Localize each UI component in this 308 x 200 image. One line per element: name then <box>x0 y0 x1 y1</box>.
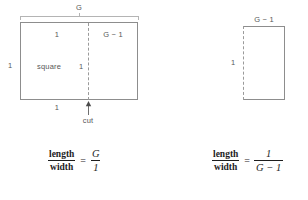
right-label-one: 1 <box>231 59 235 67</box>
left-formula-rhs-numerator: G <box>90 148 102 160</box>
label-top-left-one: 1 <box>55 31 59 39</box>
label-bottom-one: 1 <box>55 104 59 112</box>
label-inner-right-one: 1 <box>79 63 83 71</box>
extent-cap-right <box>138 16 139 20</box>
left-ratio-formula: length width = G 1 <box>47 148 102 174</box>
cut-arrow-icon <box>84 101 93 115</box>
right-formula-equals: = <box>244 155 250 166</box>
right-ratio-formula: length width = 1 G − 1 <box>211 148 283 174</box>
left-formula-numerator: length <box>47 149 76 160</box>
extent-line-g <box>20 16 138 17</box>
right-formula-rhs-numerator: 1 <box>264 148 273 160</box>
left-formula-rhs-denominator: 1 <box>91 160 100 173</box>
extent-label-g: G <box>76 4 82 12</box>
label-top-right-g-minus-1: G − 1 <box>103 31 123 39</box>
right-formula-denominator: width <box>212 160 239 172</box>
cut-dashed-line <box>88 23 89 100</box>
figure-canvas: G 1 G − 1 1 square 1 1 cut G − 1 1 lengt… <box>0 0 308 200</box>
label-square: square <box>37 63 61 71</box>
left-formula-rhs-fraction: G 1 <box>90 148 102 174</box>
cut-piece-dashed-edge <box>243 26 244 100</box>
label-left-one: 1 <box>8 62 12 70</box>
right-formula-numerator: length <box>211 149 240 160</box>
extent-cap-left <box>20 16 21 20</box>
right-formula-rhs-fraction: 1 G − 1 <box>254 148 283 174</box>
right-formula-rhs-denominator: G − 1 <box>254 160 283 173</box>
left-formula-denominator: width <box>48 160 75 172</box>
right-label-g-minus-1: G − 1 <box>254 16 274 24</box>
right-formula-lhs-fraction: length width <box>211 149 240 173</box>
cut-piece-rectangle <box>243 26 285 100</box>
left-formula-lhs-fraction: length width <box>47 149 76 173</box>
label-cut: cut <box>83 117 94 125</box>
extent-center-tick <box>79 13 80 16</box>
left-formula-equals: = <box>80 155 86 166</box>
